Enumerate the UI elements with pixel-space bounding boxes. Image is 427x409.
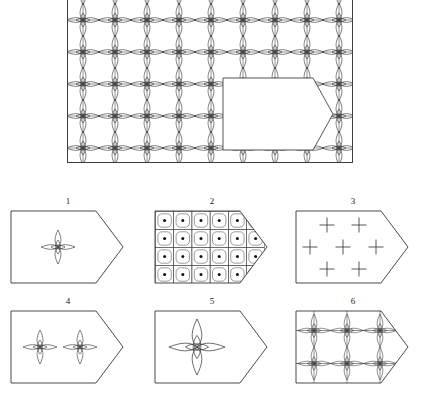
panel-label-2: 2: [152, 196, 272, 206]
panel-4-art: [8, 308, 128, 386]
star-motif: [194, 163, 228, 197]
center-dot: [200, 237, 203, 240]
panel-large-star[interactable]: 5: [152, 296, 272, 388]
center-dot: [254, 255, 257, 258]
pentagon-outline: [155, 311, 267, 383]
star-motif: [258, 163, 292, 197]
panel-3-art: [293, 208, 413, 286]
star-motif: [226, 163, 260, 197]
center-dot: [218, 237, 221, 240]
center-dot: [163, 237, 166, 240]
panel-label-1: 1: [8, 196, 128, 206]
panel-1-art: [8, 208, 128, 286]
center-dot: [181, 273, 184, 276]
star-motif: [66, 163, 100, 197]
center-dot: [200, 255, 203, 258]
star-motif: [322, 163, 356, 197]
star-motif: [98, 163, 132, 197]
main-pattern-svg: [67, 0, 353, 163]
panel-6-art: [293, 308, 413, 386]
panel-label-6: 6: [293, 296, 413, 306]
panel-2-art: [152, 208, 272, 286]
panel-label-3: 3: [293, 196, 413, 206]
center-dot: [218, 219, 221, 222]
panel-two-stars[interactable]: 4: [8, 296, 128, 388]
center-dot: [236, 237, 239, 240]
panel-plus-signs[interactable]: 3: [293, 196, 413, 288]
center-dot: [181, 219, 184, 222]
center-dot: [181, 237, 184, 240]
center-dot: [163, 219, 166, 222]
panel-5-art: [152, 308, 272, 386]
pentagon-outline: [11, 211, 123, 283]
panel-label-4: 4: [8, 296, 128, 306]
star-motif: [290, 163, 324, 197]
center-dot: [200, 273, 203, 276]
center-dot: [163, 255, 166, 258]
center-dot: [254, 237, 257, 240]
center-dot: [236, 219, 239, 222]
panel-label-5: 5: [152, 296, 272, 306]
pentagon-cutout: [223, 78, 333, 150]
panel-dotted-grid[interactable]: 2: [152, 196, 272, 288]
center-dot: [236, 255, 239, 258]
center-dot: [218, 255, 221, 258]
star-motif: [130, 163, 164, 197]
center-dot: [200, 219, 203, 222]
star-motif: [162, 163, 196, 197]
main-pattern-figure: [67, 0, 353, 163]
center-dot: [163, 273, 166, 276]
center-dot: [218, 273, 221, 276]
pentagon-outline: [11, 311, 123, 383]
center-dot: [181, 255, 184, 258]
panel-single-star[interactable]: 1: [8, 196, 128, 288]
panel-star-lattice[interactable]: 6: [293, 296, 413, 388]
center-dot: [236, 273, 239, 276]
